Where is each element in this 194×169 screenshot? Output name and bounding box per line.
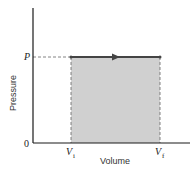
vi-subscript: i (73, 152, 75, 160)
initial-state-point (70, 56, 73, 59)
pressure-tick-label: P (23, 51, 30, 62)
pv-diagram: P 0 V i V f Volume Pressure (0, 0, 194, 169)
y-axis-label: Pressure (8, 75, 18, 111)
final-state-point (159, 56, 162, 59)
origin-label: 0 (24, 138, 29, 149)
x-axis-label: Volume (100, 156, 130, 166)
work-area (71, 57, 160, 143)
vf-subscript: f (162, 152, 165, 160)
